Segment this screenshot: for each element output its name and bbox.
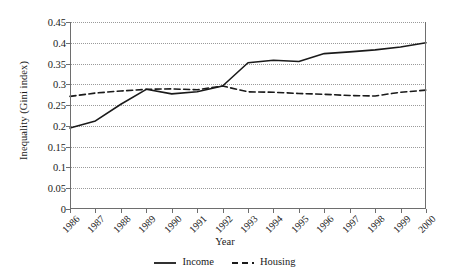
y-tick-label: 0.35: [48, 58, 66, 69]
y-tick-label: 0.2: [53, 120, 66, 131]
y-tick-label: 0.1: [53, 162, 66, 173]
legend-item-income: Income: [154, 257, 214, 268]
series-layer: [70, 22, 426, 209]
x-tick-mark: [426, 209, 427, 213]
y-tick-label: 0.05: [48, 183, 66, 194]
legend-item-housing: Housing: [232, 257, 296, 268]
y-tick-label: 0.15: [48, 141, 66, 152]
series-housing-line: [70, 86, 426, 96]
dashed-line-swatch: [232, 258, 254, 266]
x-axis-title: Year: [0, 236, 450, 247]
y-axis-line: [70, 22, 71, 209]
solid-line-swatch: [154, 258, 176, 266]
plot-area: [70, 22, 426, 209]
y-tick-label: 0.3: [53, 79, 66, 90]
chart-legend: Income Housing: [0, 257, 450, 268]
legend-label-housing: Housing: [260, 257, 296, 268]
plot-right-border: [425, 22, 426, 209]
legend-label-income: Income: [182, 257, 214, 268]
series-income-line: [70, 43, 426, 128]
y-tick-label: 0.4: [53, 37, 66, 48]
y-tick-label: 0.25: [48, 100, 66, 111]
y-tick-label: 0.45: [48, 17, 66, 28]
gini-index-line-chart: Inequality (Gini index) 00.050.10.150.20…: [0, 0, 450, 279]
